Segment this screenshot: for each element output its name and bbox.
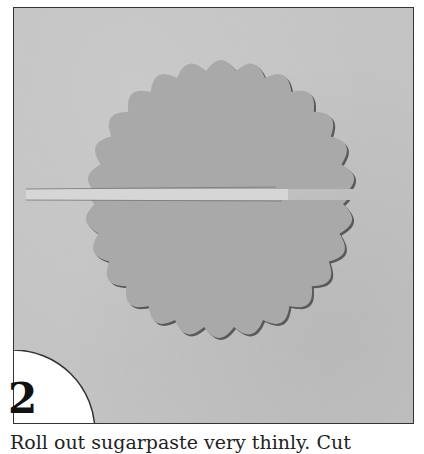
step-caption: Roll out sugarpaste very thinly. Cut [10,430,424,454]
step-photo [13,7,414,424]
cut-strip [26,189,288,200]
step-number: 2 [8,378,37,420]
